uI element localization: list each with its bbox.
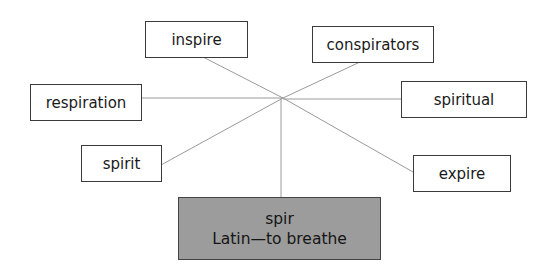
root-box: spir Latin—to breathe: [178, 197, 381, 260]
word-box-expire: expire: [413, 155, 511, 192]
word-label: inspire: [171, 31, 221, 49]
word-box-spirit: spirit: [81, 145, 162, 182]
word-label: respiration: [46, 94, 127, 112]
word-label: spirit: [103, 155, 141, 173]
line-expire: [283, 98, 413, 172]
word-label: conspirators: [327, 36, 420, 54]
word-box-conspirators: conspirators: [312, 26, 434, 63]
word-box-inspire: inspire: [145, 21, 248, 58]
word-label: spiritual: [434, 91, 495, 109]
line-conspirators: [283, 62, 360, 98]
word-box-spiritual: spiritual: [401, 81, 527, 118]
root-meaning: Latin—to breathe: [212, 229, 347, 249]
root-word: spir: [265, 209, 294, 229]
word-label: expire: [439, 165, 486, 183]
line-inspire: [203, 57, 283, 98]
line-spirit: [161, 98, 283, 165]
word-box-respiration: respiration: [30, 84, 142, 121]
